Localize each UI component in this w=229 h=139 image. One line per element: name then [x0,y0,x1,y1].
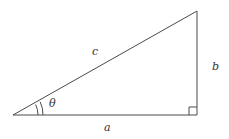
right-angle-marker-icon [189,107,197,115]
label-b: b [212,60,219,73]
label-a: a [104,121,111,134]
label-theta: θ [49,97,56,110]
label-c: c [92,45,98,58]
angle-arc-inner-icon [36,105,38,116]
angle-arc-outer-icon [40,102,43,115]
right-triangle-diagram: c b θ a [0,0,229,139]
side-c-hypotenuse [13,11,197,115]
